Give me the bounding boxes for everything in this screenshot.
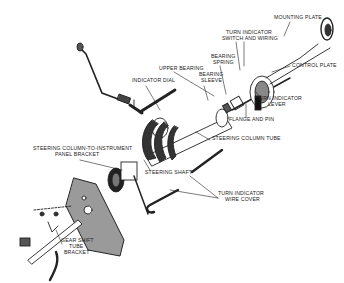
spring <box>140 90 175 112</box>
mounting-plate-part <box>321 18 333 40</box>
label-gear-shift-bracket-3: BRACKET <box>64 249 90 255</box>
label-turn-indicator-lever-2: LEVER <box>268 101 286 107</box>
exploded-diagram <box>0 0 344 283</box>
label-bearing-spring-2: SPRING <box>213 59 234 65</box>
label-mounting-plate: MOUNTING PLATE <box>274 14 322 20</box>
label-turn-indicator-switch-2: SWITCH AND WIRING <box>222 35 278 41</box>
label-control-plate: CONTROL PLATE <box>292 62 337 68</box>
column-bracket-part <box>142 120 178 162</box>
steering-shaft-gear <box>108 162 148 214</box>
label-bearing-sleeve-2: SLEEVE <box>201 77 222 83</box>
label-steering-shaft: STEERING SHAFT <box>145 169 192 175</box>
label-steering-column-tube: STEERING COLUMN TUBE <box>212 135 281 141</box>
label-upper-bearing: UPPER BEARING <box>159 65 204 71</box>
label-flange-and-pin: FLANGE AND PIN <box>229 116 274 122</box>
label-wire-cover-2: WIRE COVER <box>225 196 260 202</box>
label-column-bracket-2: PANEL BRACKET <box>55 151 99 157</box>
label-indicator-dial: INDICATOR DIAL <box>132 77 175 83</box>
